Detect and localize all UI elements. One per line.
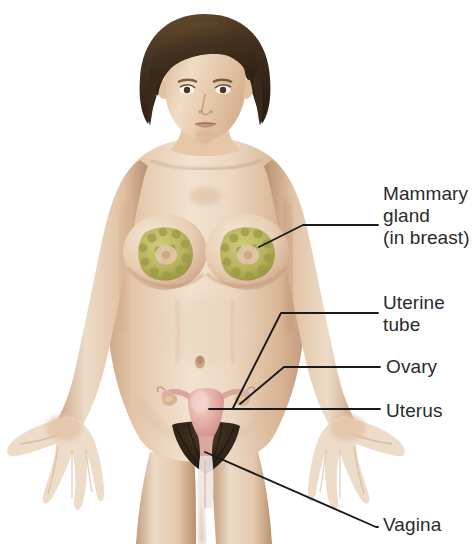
- female-body-illustration: [0, 0, 474, 544]
- label-uterine-tube: Uterine tube: [383, 292, 445, 336]
- mammary-gland-right: [220, 227, 275, 280]
- label-ovary: Ovary: [386, 356, 437, 378]
- label-uterus: Uterus: [386, 400, 443, 422]
- label-vagina: Vagina: [383, 514, 441, 536]
- label-mammary-gland: Mammary gland (in breast): [383, 183, 470, 249]
- mammary-gland-left: [138, 227, 193, 280]
- anatomy-figure: Mammary gland (in breast) Uterine tube O…: [0, 0, 474, 544]
